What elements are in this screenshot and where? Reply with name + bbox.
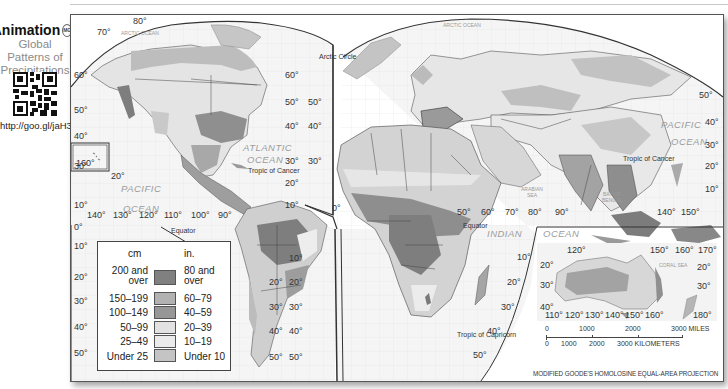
lat-left-40: 40° — [74, 131, 88, 141]
legend-swatch-darkest — [154, 270, 176, 285]
scale-tick — [592, 335, 593, 338]
lon-ind-90: 90° — [555, 207, 569, 217]
lat-afr-30: 30° — [501, 302, 515, 312]
inset-lon-180: 180° — [693, 310, 712, 320]
lat-as-10: 10° — [705, 184, 719, 194]
inset-lat-20-left: 20° — [540, 260, 554, 270]
lat-sa-20: 20° — [269, 277, 283, 287]
lon-ind-50: 50° — [457, 207, 471, 217]
lat-africa-0: 0° — [332, 203, 341, 213]
lat-am-10: 10° — [285, 200, 299, 210]
scale-tick — [638, 335, 639, 338]
lat-as-40: 40° — [705, 117, 719, 127]
pacific-ocean-label-right-2: OCEAN — [671, 136, 707, 147]
lat-left-10: 10° — [74, 200, 88, 210]
lat-sa-40: 40° — [269, 326, 283, 336]
precipitation-legend: cm in. 200 and over 80 and over 150–199 … — [97, 241, 231, 371]
scale-miles-1000: 1000 — [579, 325, 595, 332]
scale-miles-0: 0 — [545, 325, 549, 332]
lat-as-50: 50° — [699, 90, 713, 100]
arabian-sea-label-2: SEA — [527, 192, 537, 198]
equator-label-right: Equator — [463, 222, 488, 229]
lon-ind-60: 60° — [481, 207, 495, 217]
lat-left-0: 0° — [74, 222, 83, 232]
lat-af-30: 30° — [289, 302, 303, 312]
pacific-ocean-label-right: PACIFIC — [661, 119, 701, 130]
scale-miles-2000: 2000 — [625, 325, 641, 332]
lat-eu-50: 50° — [308, 97, 322, 107]
lon-pac-120: 120° — [139, 210, 158, 220]
equator-label-left: Equator — [171, 227, 196, 234]
lat-afr-50: 50° — [473, 350, 487, 360]
indian-ocean-label-2: OCEAN — [543, 228, 579, 239]
legend-swatch-dark — [154, 306, 176, 319]
lon-pac-140: 140° — [87, 210, 106, 220]
lat-am-20: 20° — [285, 178, 299, 188]
inset-lon-120: 120° — [567, 245, 586, 255]
lat-afr-20: 20° — [507, 277, 521, 287]
lon-asia-150: 150° — [681, 207, 700, 217]
legend-cm-label: 50–99 — [120, 323, 148, 333]
legend-swatch-light — [154, 321, 176, 334]
legend-in-label: 40–59 — [184, 308, 212, 318]
lat-afr-10: 10° — [517, 252, 531, 262]
inset-lon-110: 110° — [545, 310, 563, 320]
legend-in-label-2: over — [184, 276, 203, 286]
animation-title[interactable]: Animation MG — [0, 22, 70, 38]
arctic-circle-label: Arctic Circle — [319, 53, 356, 60]
animation-subtitle-2: Patterns of — [0, 51, 70, 64]
lat-eu-30: 30° — [308, 156, 322, 166]
qr-code-icon[interactable] — [13, 72, 57, 116]
scale-km-1000: 1000 — [561, 340, 577, 347]
indian-ocean-label: INDIAN — [487, 228, 522, 239]
animation-label: Animation — [0, 22, 60, 38]
lat-afr-40: 40° — [487, 326, 501, 336]
scale-km-0: 0 — [545, 340, 549, 347]
lat-as-20: 20° — [705, 161, 719, 171]
inset-lon-150: 150° — [650, 245, 669, 255]
lat-left-s10: 10° — [74, 241, 88, 251]
legend-swatch-lightest — [154, 335, 176, 348]
legend-row-100-149: 100–149 40–59 — [98, 306, 230, 320]
page-rule — [70, 4, 728, 5]
legend-cm-label: 150–199 — [109, 294, 148, 304]
lat-sa-30: 30° — [269, 302, 283, 312]
legend-cm-label: 25–49 — [120, 337, 148, 347]
lat-left-s50: 50° — [74, 348, 88, 358]
legend-row-25-49: 25–49 10–19 — [98, 335, 230, 349]
animation-panel[interactable]: Animation MG Global Patterns of Precipit… — [0, 22, 70, 77]
inset-lat-30-right: 30° — [697, 281, 711, 291]
lat-af-10: 10° — [289, 253, 303, 263]
legend-row-200-over: 200 and over 80 and over — [98, 266, 230, 290]
lon-hawaii-160: 160° — [76, 158, 95, 168]
coral-sea-label: CORAL SEA — [659, 262, 687, 268]
inset-lon-170: 170° — [698, 245, 717, 255]
lat-sa-50: 50° — [269, 352, 283, 362]
legend-row-50-99: 50–99 20–39 — [98, 321, 230, 335]
atlantic-ocean-label-2: OCEAN — [247, 154, 283, 165]
arctic-ocean-label-right: ARCTIC OCEAN — [443, 22, 481, 28]
legend-header-cm: cm — [128, 248, 141, 259]
inset-lon-140: 140° — [605, 310, 624, 320]
legend-in-label: 20–39 — [184, 323, 212, 333]
inset-lat-30-left: 30° — [540, 280, 554, 290]
scale-miles-3000: 3000 MILES — [671, 325, 710, 332]
legend-row-under-25: Under 25 Under 10 — [98, 349, 230, 363]
precipitation-map: ARCTIC OCEAN ARCTIC OCEAN ATLANTIC OCEAN… — [70, 14, 724, 382]
lat-left-s20: 20° — [74, 272, 88, 282]
legend-swatch-medium — [154, 349, 176, 362]
projection-note: MODIFIED GOODE'S HOMOLOSINE EQUAL-AREA P… — [533, 370, 718, 377]
pacific-ocean-label-left: PACIFIC — [121, 183, 161, 194]
lat-af-50: 50° — [289, 352, 303, 362]
inset-lon-150-b: 150° — [625, 310, 644, 320]
lat-am-60: 60° — [285, 70, 299, 80]
lat-left-60: 60° — [74, 70, 88, 80]
animation-url-link[interactable]: http://goo.gl/jaH3Zz — [0, 120, 72, 131]
lon-ind-70: 70° — [505, 207, 519, 217]
tropic-of-cancer-label-left: Tropic of Cancer — [248, 167, 299, 174]
legend-in-label: 60–79 — [184, 294, 212, 304]
lat-left-50: 50° — [74, 105, 88, 115]
legend-cm-label: 100–149 — [109, 308, 148, 318]
scale-km-2000: 2000 — [589, 340, 605, 347]
scale-bar: 0 1000 2000 3000 MILES 0 1000 2000 3000 … — [543, 326, 719, 366]
